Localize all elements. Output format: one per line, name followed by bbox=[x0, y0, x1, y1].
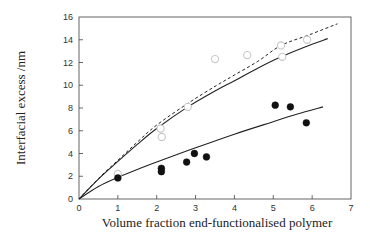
chart: 01234567 0246810121416 Volume fraction e… bbox=[0, 0, 370, 240]
y-tick-label: 14 bbox=[63, 35, 73, 45]
y-tick-label: 10 bbox=[63, 80, 73, 90]
lower-solid-fit-line bbox=[79, 107, 323, 199]
x-axis-label: Volume fraction end-functionalised polym… bbox=[102, 215, 333, 230]
open-circle-point bbox=[277, 42, 284, 49]
y-tick-label: 0 bbox=[68, 194, 73, 204]
open-circle-point bbox=[184, 103, 191, 110]
x-tick-label: 2 bbox=[154, 203, 159, 213]
x-tick-label: 1 bbox=[115, 203, 120, 213]
y-axis-label: Interfacial excess /nm bbox=[13, 51, 28, 165]
data-points bbox=[114, 36, 310, 181]
open-circle-point bbox=[157, 125, 164, 132]
x-tick-label: 3 bbox=[193, 203, 198, 213]
x-tick-label: 6 bbox=[310, 203, 315, 213]
y-tick-label: 2 bbox=[68, 171, 73, 181]
y-tick-label: 8 bbox=[68, 103, 73, 113]
filled-circle-point bbox=[303, 119, 310, 126]
x-tick-label: 4 bbox=[232, 203, 237, 213]
y-tick-label: 12 bbox=[63, 58, 73, 68]
x-tick-label: 0 bbox=[76, 203, 81, 213]
filled-circle-point bbox=[287, 103, 294, 110]
y-tick-label: 4 bbox=[68, 149, 73, 159]
open-circle-point bbox=[211, 55, 218, 62]
filled-circle-point bbox=[203, 154, 210, 161]
y-axis-ticks: 0246810121416 bbox=[63, 12, 83, 204]
x-axis-ticks: 01234567 bbox=[76, 195, 353, 213]
open-circle-point bbox=[279, 53, 286, 60]
y-tick-label: 16 bbox=[63, 12, 73, 22]
x-tick-label: 7 bbox=[348, 203, 353, 213]
open-circle-point bbox=[158, 133, 165, 140]
x-tick-label: 5 bbox=[271, 203, 276, 213]
filled-circle-point bbox=[114, 175, 121, 182]
y-tick-label: 6 bbox=[68, 126, 73, 136]
filled-circle-point bbox=[158, 168, 165, 175]
filled-circle-point bbox=[272, 102, 279, 109]
open-circle-point bbox=[244, 52, 251, 59]
filled-circle-point bbox=[183, 159, 190, 166]
filled-circle-point bbox=[191, 150, 198, 157]
open-circle-point bbox=[303, 36, 310, 43]
